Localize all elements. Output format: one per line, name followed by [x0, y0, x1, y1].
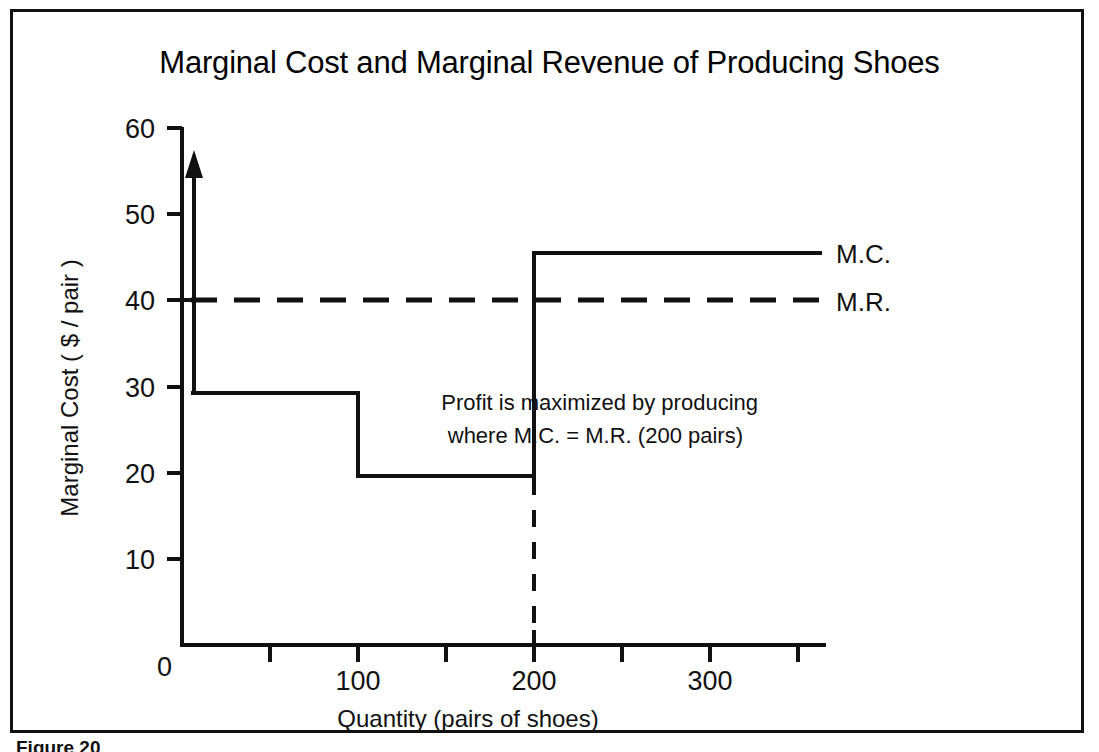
x-axis-title: Quantity (pairs of shoes) — [337, 705, 598, 732]
y-tick-label-50: 50 — [125, 200, 155, 230]
chart-plot-area: 60 50 40 30 20 10 0 100 200 300 Quantity… — [0, 0, 1099, 752]
y-axis-title: Marginal Cost ( $ / pair ) — [56, 259, 83, 516]
series-label-mc: M.C. — [836, 239, 891, 269]
y-tick-label-0: 0 — [157, 652, 172, 682]
profit-note-line-2: where M.C. = M.R. (200 pairs) — [447, 423, 743, 448]
x-tick-label-300: 300 — [687, 666, 732, 696]
y-tick-label-40: 40 — [125, 286, 155, 316]
y-tick-label-60: 60 — [125, 114, 155, 144]
y-tick-label-10: 10 — [125, 545, 155, 575]
mc-rise-arrow-icon — [185, 150, 203, 391]
y-tick-label-20: 20 — [125, 459, 155, 489]
x-tick-label-100: 100 — [335, 666, 380, 696]
y-tick-label-30: 30 — [125, 373, 155, 403]
series-label-mr: M.R. — [836, 287, 891, 317]
figure-root: Marginal Cost and Marginal Revenue of Pr… — [0, 0, 1099, 752]
figure-caption: Figure 20 — [16, 737, 100, 752]
profit-note-line-1: Profit is maximized by producing — [441, 390, 758, 415]
x-tick-label-200: 200 — [511, 666, 556, 696]
